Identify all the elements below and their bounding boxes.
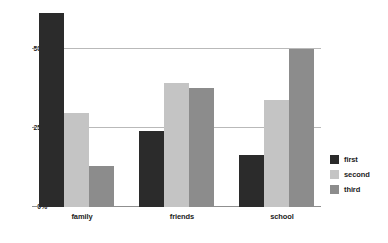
legend-label: first	[344, 155, 358, 164]
bar-friends-third[interactable]	[189, 8, 214, 207]
bar-school-second[interactable]	[264, 8, 289, 207]
legend-swatch-icon	[330, 170, 339, 179]
bar-chart: 50% 25% 0%	[0, 0, 388, 243]
bar-group-family	[39, 8, 114, 207]
legend: first second third	[330, 152, 370, 197]
plot-area	[36, 8, 321, 207]
x-axis-label-school: school	[252, 212, 312, 221]
x-axis-label-family: family	[52, 212, 112, 221]
bar-rect	[289, 49, 314, 207]
bar-rect	[164, 83, 189, 207]
bar-rect	[264, 100, 289, 207]
tick-mark-0	[32, 206, 36, 207]
bar-family-third[interactable]	[89, 8, 114, 207]
tick-mark-25	[32, 127, 36, 128]
legend-label: third	[344, 185, 360, 194]
bar-rect	[239, 155, 264, 207]
tick-mark-50	[32, 48, 36, 49]
legend-swatch-icon	[330, 185, 339, 194]
bar-family-second[interactable]	[64, 8, 89, 207]
bar-friends-second[interactable]	[164, 8, 189, 207]
bar-rect	[189, 88, 214, 207]
bar-friends-first[interactable]	[139, 8, 164, 207]
legend-item-first[interactable]: first	[330, 152, 370, 167]
bar-rect	[139, 131, 164, 207]
bar-group-school	[239, 8, 314, 207]
legend-item-second[interactable]: second	[330, 167, 370, 182]
bar-school-third[interactable]	[289, 8, 314, 207]
bar-rect	[64, 113, 89, 207]
legend-swatch-icon	[330, 155, 339, 164]
legend-item-third[interactable]: third	[330, 182, 370, 197]
bar-family-first[interactable]	[39, 8, 64, 207]
bar-rect	[39, 13, 64, 207]
x-axis-label-friends: friends	[152, 212, 212, 221]
bar-rect	[89, 166, 114, 207]
bar-group-friends	[139, 8, 214, 207]
bar-school-first[interactable]	[239, 8, 264, 207]
legend-label: second	[344, 170, 370, 179]
